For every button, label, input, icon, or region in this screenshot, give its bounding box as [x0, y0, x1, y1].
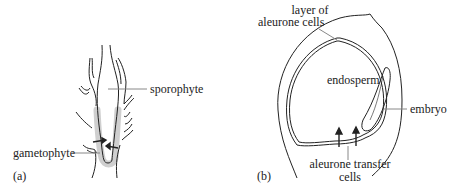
- transfer-label-line2: cells: [305, 171, 395, 183]
- panel-a-caption: (a): [13, 170, 26, 182]
- aleurone-layer-inner: [289, 41, 383, 143]
- aleurone-layer-label-line2: aleurone cells: [258, 16, 324, 28]
- transfer-label-line1: aleurone transfer: [305, 158, 395, 170]
- sporophyte-label: sporophyte: [150, 83, 203, 95]
- endosperm-label: endosperm: [327, 74, 380, 86]
- transfer-arrows-b: [336, 127, 359, 147]
- gametophyte-label: gametophyte: [13, 147, 75, 159]
- aleurone-leader: [319, 29, 337, 40]
- embryo-label: embryo: [410, 103, 447, 115]
- panel-b-caption: (b): [257, 170, 271, 182]
- panel-b-drawing: [278, 14, 407, 178]
- panel-a-drawing: [72, 45, 147, 178]
